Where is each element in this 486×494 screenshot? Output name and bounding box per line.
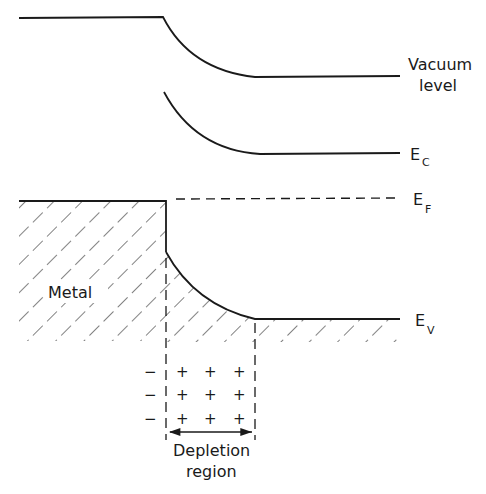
- valence-band-region: [166, 250, 400, 344]
- svg-text:+: +: [204, 363, 217, 381]
- svg-text:−: −: [144, 410, 157, 428]
- svg-text:+: +: [176, 386, 189, 404]
- ec-label: E C: [410, 145, 430, 169]
- svg-text:+: +: [233, 363, 246, 381]
- svg-text:−: −: [144, 363, 157, 381]
- svg-text:+: +: [204, 410, 217, 428]
- band-diagram: − − − + + + + + + + + + Vacuum level E C…: [0, 0, 486, 494]
- svg-text:+: +: [233, 386, 246, 404]
- depletion-label-line2: region: [186, 462, 237, 481]
- svg-text:+: +: [204, 386, 217, 404]
- ef-label: E F: [413, 190, 431, 216]
- negative-charges: − − −: [144, 363, 157, 428]
- positive-charges: + + + + + + + + +: [176, 363, 246, 428]
- fermi-level-line: [176, 198, 400, 199]
- svg-text:+: +: [176, 363, 189, 381]
- svg-text:C: C: [422, 156, 430, 169]
- metal-region: [19, 201, 166, 341]
- vacuum-level-label-line2: level: [419, 76, 457, 95]
- vacuum-level-line: [19, 17, 400, 77]
- conduction-band-line: [164, 92, 400, 154]
- depletion-label-line1: Depletion: [173, 441, 250, 460]
- svg-text:E: E: [410, 145, 420, 164]
- svg-text:F: F: [425, 203, 431, 216]
- svg-text:E: E: [415, 311, 425, 330]
- svg-text:V: V: [427, 324, 435, 337]
- svg-text:E: E: [413, 190, 423, 209]
- ev-label: E V: [415, 311, 435, 337]
- vacuum-level-label-line1: Vacuum: [408, 55, 472, 74]
- metal-label: Metal: [48, 283, 92, 302]
- svg-text:+: +: [176, 410, 189, 428]
- svg-text:−: −: [144, 386, 157, 404]
- svg-text:+: +: [233, 410, 246, 428]
